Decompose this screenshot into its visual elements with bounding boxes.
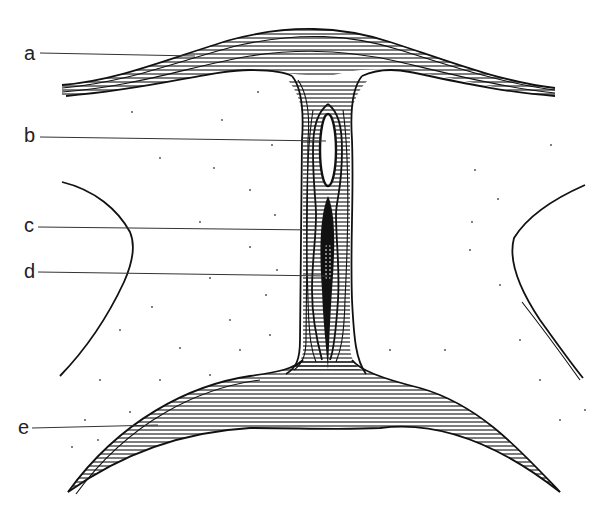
svg-text:c: c <box>24 214 34 236</box>
svg-text:a: a <box>24 42 36 64</box>
svg-text:d: d <box>24 260 35 282</box>
svg-text:b: b <box>24 124 35 146</box>
label-d: d <box>24 260 328 282</box>
label-b: b <box>24 124 326 146</box>
lower-fibrous-band <box>60 355 570 500</box>
anatomical-diagram: a b c d e <box>0 0 609 508</box>
svg-text:e: e <box>18 416 29 438</box>
label-c: c <box>24 214 316 236</box>
